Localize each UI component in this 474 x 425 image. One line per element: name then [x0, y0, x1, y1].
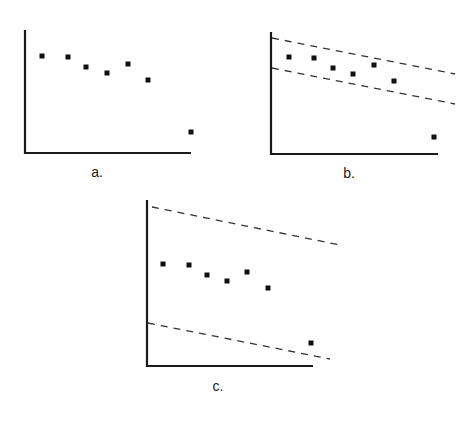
- data-point: [189, 130, 194, 135]
- data-point: [372, 63, 377, 68]
- data-point: [225, 279, 230, 284]
- panel-c-axes: [147, 200, 313, 366]
- data-point: [392, 79, 397, 84]
- panel-c: c.: [147, 200, 340, 394]
- data-point: [309, 341, 314, 346]
- data-point: [312, 56, 317, 61]
- data-point: [66, 55, 71, 60]
- panel-b-label: b.: [343, 165, 355, 181]
- data-point: [84, 65, 89, 70]
- figure-canvas: a. b. c.: [0, 0, 474, 425]
- data-point: [432, 135, 437, 140]
- data-point: [40, 54, 45, 59]
- data-point: [287, 55, 292, 60]
- panel-a: a.: [25, 30, 194, 180]
- panel-a-axes: [25, 30, 191, 153]
- data-point: [187, 263, 192, 268]
- panel-a-label: a.: [91, 164, 103, 180]
- panel-c-band-upper: [152, 207, 340, 245]
- data-point: [331, 66, 336, 71]
- data-point: [205, 273, 210, 278]
- panel-b-axes: [271, 32, 438, 154]
- panel-b: b.: [271, 32, 455, 181]
- data-point: [161, 262, 166, 267]
- data-point: [245, 270, 250, 275]
- data-point: [351, 72, 356, 77]
- data-point: [105, 71, 110, 76]
- data-point: [146, 78, 151, 83]
- panel-b-band-upper: [272, 38, 455, 74]
- panel-c-label: c.: [213, 378, 224, 394]
- panel-c-band-lower: [148, 323, 330, 359]
- data-point: [266, 286, 271, 291]
- panel-b-band-lower: [272, 68, 455, 104]
- data-point: [126, 62, 131, 67]
